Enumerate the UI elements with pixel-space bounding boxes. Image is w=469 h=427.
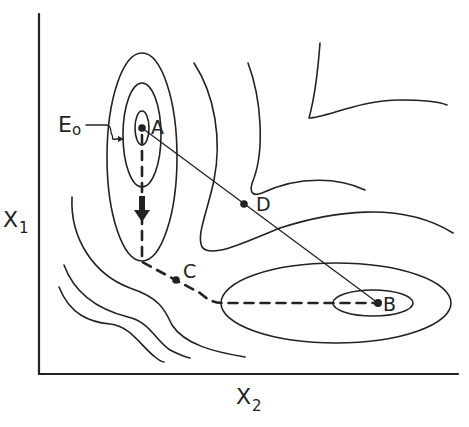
point-a xyxy=(138,124,146,132)
point-b-label: B xyxy=(383,293,396,315)
point-c xyxy=(172,276,180,284)
e0-pointer xyxy=(86,125,121,139)
point-c-label: C xyxy=(183,260,196,282)
contour-top-right xyxy=(309,43,447,118)
y-axis-label: X1 xyxy=(3,207,29,237)
contour-diagram: X1 X2 Eo xyxy=(0,0,469,427)
descent-arrow-icon xyxy=(134,196,150,222)
point-b xyxy=(374,299,382,307)
e0-annotation: Eo xyxy=(58,112,124,142)
contour-hook-middle xyxy=(248,63,365,194)
contours-around-b xyxy=(221,263,451,343)
axes xyxy=(39,14,458,374)
contour-hook-left xyxy=(194,63,453,251)
point-a-label: A xyxy=(151,116,164,138)
point-d-label: D xyxy=(256,193,271,215)
contour-lower-3 xyxy=(59,287,164,362)
contour-lower-1 xyxy=(72,197,245,357)
e0-label: Eo xyxy=(58,112,81,139)
point-d xyxy=(240,200,248,208)
x-axis-label: X2 xyxy=(236,384,262,415)
contour-b-outer xyxy=(221,263,451,343)
